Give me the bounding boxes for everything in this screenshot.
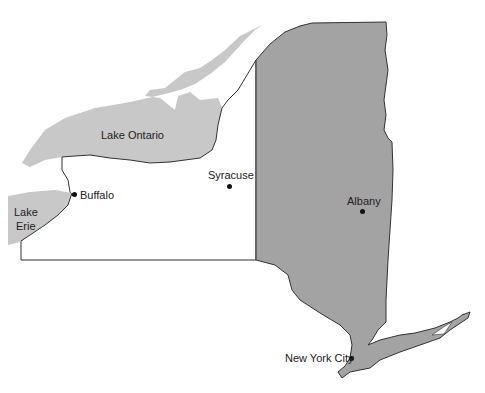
albany-marker: [360, 209, 365, 214]
new-york-map: Lake Ontario Lake Erie Buffalo Syracuse …: [0, 0, 485, 393]
syracuse-label: Syracuse: [208, 169, 254, 181]
lake-erie-label-line1: Lake: [14, 206, 38, 218]
buffalo-label: Buffalo: [80, 189, 114, 201]
buffalo-marker: [72, 192, 77, 197]
lake-erie-label-line2: Erie: [16, 220, 36, 232]
nyc-label: New York City: [285, 352, 353, 364]
albany-label: Albany: [347, 195, 381, 207]
syracuse-marker: [227, 184, 232, 189]
niagara-river: [62, 157, 73, 196]
lake-ontario-label: Lake Ontario: [101, 129, 164, 141]
lake-ontario-shape: [22, 25, 262, 167]
